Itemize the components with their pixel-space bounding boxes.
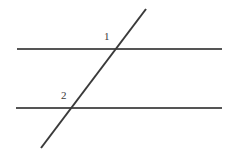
transversal-line bbox=[41, 9, 146, 148]
geometry-diagram bbox=[0, 0, 236, 154]
angle-label-2: 2 bbox=[61, 90, 67, 101]
angle-label-1: 1 bbox=[104, 31, 110, 42]
geometry-figure: 1 2 bbox=[0, 0, 236, 154]
